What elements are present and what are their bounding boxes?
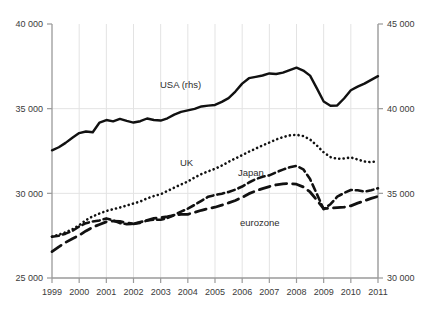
x-tick-label: 2011 [368,287,387,297]
x-tick-label: 2002 [123,287,143,297]
series-label-eurozone: eurozone [240,217,280,228]
x-tick-label: 2006 [232,287,252,297]
right-tick-label: 35 000 [387,189,415,199]
x-tick-label: 2003 [151,287,171,297]
series-label-uk: UK [180,157,194,168]
series-label-japan: Japan [238,167,264,178]
gridlines [52,24,378,278]
x-tick-label: 2009 [314,287,334,297]
left-tick-label: 30 000 [15,189,43,199]
x-tick-label: 2000 [69,287,89,297]
x-tick-label: 2004 [178,287,198,297]
x-tick-label: 2001 [96,287,116,297]
left-tick-label: 25 000 [15,273,43,283]
right-tick-label: 45 000 [387,19,415,29]
x-tick-label: 1999 [42,287,62,297]
right-tick-label: 30 000 [387,273,415,283]
left-axis-tick-labels: 25 00030 00035 00040 000 [15,19,43,283]
x-tick-label: 2008 [286,287,306,297]
line-chart: 25 00030 00035 00040 000 30 00035 00040 … [0,0,440,314]
x-axis-ticks [52,278,378,283]
right-tick-label: 40 000 [387,104,415,114]
x-tick-label: 2005 [205,287,225,297]
x-tick-label: 2010 [341,287,361,297]
left-tick-label: 35 000 [15,104,43,114]
right-axis-tick-labels: 30 00035 00040 00045 000 [387,19,415,283]
left-tick-label: 40 000 [15,19,43,29]
chart-container: 25 00030 00035 00040 000 30 00035 00040 … [0,0,440,314]
x-tick-label: 2007 [259,287,279,297]
series-label-usa-rhs: USA (rhs) [160,79,201,90]
x-axis-tick-labels: 1999200020012002200320042005200620072008… [42,287,388,297]
right-axis-ticks [378,24,383,278]
